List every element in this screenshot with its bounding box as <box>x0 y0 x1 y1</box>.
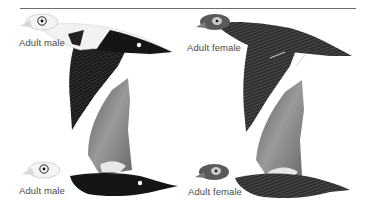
male-lower-body <box>70 173 178 196</box>
label-adult-male-top: Adult male <box>19 37 65 48</box>
label-adult-female-bottom: Adult female <box>188 186 242 197</box>
label-adult-female-top: Adult female <box>187 42 241 53</box>
female-lower-figure <box>195 80 350 198</box>
female-lower-body <box>235 174 350 199</box>
male-upper-figure <box>20 14 172 130</box>
label-adult-male-bottom: Adult male <box>19 185 65 196</box>
male-lower-figure <box>22 78 178 196</box>
plate-illustration <box>0 0 369 211</box>
